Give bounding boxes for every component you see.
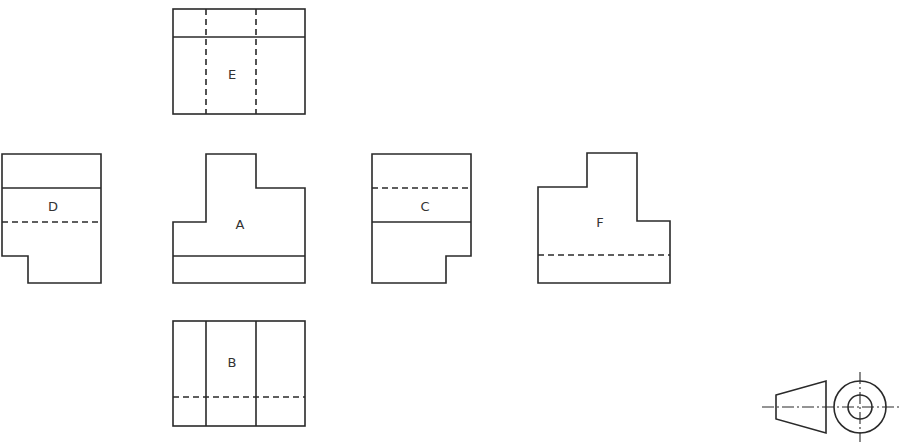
view-f: F xyxy=(538,153,670,283)
view-label-f: F xyxy=(596,215,603,230)
view-b: B xyxy=(173,321,305,426)
projection-symbol-icon xyxy=(762,372,899,442)
view-label-c: C xyxy=(420,199,429,214)
technical-drawing: E D A C F B xyxy=(0,0,907,442)
view-label-e: E xyxy=(228,67,236,82)
view-label-a: A xyxy=(236,217,245,232)
view-label-b: B xyxy=(228,355,237,370)
view-e: E xyxy=(173,9,305,114)
view-label-d: D xyxy=(48,199,58,214)
view-d: D xyxy=(2,154,101,283)
view-c: C xyxy=(372,154,471,283)
view-a: A xyxy=(173,154,305,283)
